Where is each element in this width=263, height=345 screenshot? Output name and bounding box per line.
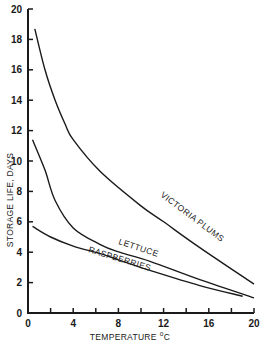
x-tick-label: 12 bbox=[158, 318, 170, 329]
y-tick-label: 20 bbox=[11, 4, 23, 15]
y-tick-label: 16 bbox=[11, 64, 23, 75]
y-tick-label: 2 bbox=[16, 277, 22, 288]
x-tick-label: 8 bbox=[116, 318, 122, 329]
x-tick-label: 16 bbox=[203, 318, 215, 329]
x-tick-label: 0 bbox=[25, 318, 31, 329]
y-axis-label: STORAGE LIFE, DAYS bbox=[5, 153, 15, 247]
storage-life-chart: 02468101214161820048121620 STORAGE LIFE,… bbox=[0, 0, 263, 345]
y-tick-label: 18 bbox=[11, 34, 23, 45]
y-tick-label: 12 bbox=[11, 125, 23, 136]
x-axis-label: TEMPERATUREoC bbox=[90, 330, 170, 342]
y-tick-label: 6 bbox=[16, 216, 22, 227]
y-tick-label: 0 bbox=[16, 308, 22, 319]
curves bbox=[33, 29, 255, 298]
curve-label-victoria-plums: VICTORIA PLUMS bbox=[159, 190, 226, 244]
curve-lettuce bbox=[33, 140, 255, 298]
y-tick-label: 4 bbox=[16, 247, 22, 258]
y-tick-label: 14 bbox=[11, 95, 23, 106]
x-tick-label: 4 bbox=[70, 318, 76, 329]
x-tick-label: 20 bbox=[248, 318, 260, 329]
ticks: 02468101214161820048121620 bbox=[11, 4, 260, 330]
y-tick-label: 8 bbox=[16, 186, 22, 197]
